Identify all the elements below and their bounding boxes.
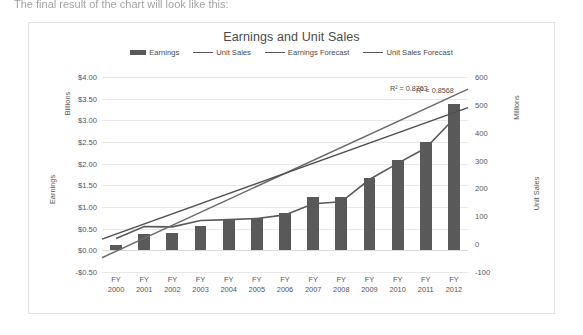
right-axis-tick-label: 600 <box>475 73 501 82</box>
legend-swatch-line-icon <box>193 52 213 53</box>
chart-title: Earnings and Unit Sales <box>29 30 554 44</box>
left-axis-tick-label: -$0.50 <box>63 268 97 277</box>
x-axis-label-fy-2006: FY2006 <box>272 275 298 294</box>
legend-swatch-line-icon <box>363 52 383 53</box>
right-axis-tick-label: 400 <box>475 128 501 137</box>
right-axis-tick-label: -100 <box>475 268 501 277</box>
left-axis-tick-label: $1.50 <box>63 181 97 190</box>
trendline-unit-sales-forecast[interactable] <box>102 108 468 239</box>
left-axis-tick-label: $2.50 <box>63 138 97 147</box>
x-axis-label-fy-2010: FY2010 <box>385 275 411 294</box>
left-axis-unit-label: Billions <box>63 92 72 115</box>
plot-inner: $4.00$3.50$3.00$2.50$2.00$1.50$1.00$0.50… <box>102 77 468 272</box>
legend-item-earnings[interactable]: Earnings <box>130 48 179 57</box>
x-axis-label-fy-2000: FY2000 <box>103 275 129 294</box>
page-intro-text: The final result of the chart will look … <box>14 0 434 11</box>
legend-label-earnings-forecast: Earnings Forecast <box>288 48 350 57</box>
x-axis-label-fy-2012: FY2012 <box>441 275 467 294</box>
right-axis-tick-label: 500 <box>475 100 501 109</box>
x-axis-label-fy-2009: FY2009 <box>356 275 382 294</box>
legend-label-earnings: Earnings <box>149 48 179 57</box>
x-axis-label-fy-2004: FY2004 <box>216 275 242 294</box>
plot-area: $4.00$3.50$3.00$2.50$2.00$1.50$1.00$0.50… <box>102 77 468 272</box>
chart-container: Earnings and Unit Sales Earnings Unit Sa… <box>28 22 555 314</box>
left-axis-tick-label: $0.00 <box>63 246 97 255</box>
right-axis-tick-label: 200 <box>475 184 501 193</box>
x-axis-label-fy-2007: FY2007 <box>300 275 326 294</box>
left-axis-tick-label: $2.00 <box>63 159 97 168</box>
left-axis-tick-label: $1.00 <box>63 203 97 212</box>
legend-swatch-bar-icon <box>130 50 146 55</box>
legend-item-earnings-forecast[interactable]: Earnings Forecast <box>265 48 350 57</box>
right-axis-tick-label: 300 <box>475 156 501 165</box>
left-axis-tick-label: $3.00 <box>63 116 97 125</box>
legend-item-unit-sales[interactable]: Unit Sales <box>193 48 251 57</box>
right-axis-tick-label: 100 <box>475 212 501 221</box>
left-axis-tick-label: $4.00 <box>63 73 97 82</box>
legend-item-unit-sales-forecast[interactable]: Unit Sales Forecast <box>363 48 452 57</box>
legend-label-unit-sales-forecast: Unit Sales Forecast <box>386 48 452 57</box>
x-axis-label-fy-2001: FY2001 <box>131 275 157 294</box>
right-axis-unit-label: Millions <box>512 95 521 120</box>
r2-label-unit-sales-forecast: R² = 0.8568 <box>416 86 454 95</box>
x-axis-label-fy-2003: FY2003 <box>188 275 214 294</box>
left-axis-tick-label: $0.50 <box>63 224 97 233</box>
x-axis-label-fy-2011: FY2011 <box>413 275 439 294</box>
right-axis-title: Unit Sales <box>532 177 541 211</box>
chart-legend: Earnings Unit Sales Earnings Forecast Un… <box>29 48 554 57</box>
line-series-layer <box>102 77 468 272</box>
x-axis-label-fy-2005: FY2005 <box>244 275 270 294</box>
line-unit-sales[interactable] <box>116 119 454 239</box>
left-axis-title: Earnings <box>48 175 57 204</box>
gridline <box>102 272 468 273</box>
x-axis-label-fy-2002: FY2002 <box>159 275 185 294</box>
right-axis-tick-label: 0 <box>475 240 501 249</box>
legend-swatch-line-icon <box>265 52 285 53</box>
legend-label-unit-sales: Unit Sales <box>216 48 251 57</box>
x-axis-label-fy-2008: FY2008 <box>328 275 354 294</box>
